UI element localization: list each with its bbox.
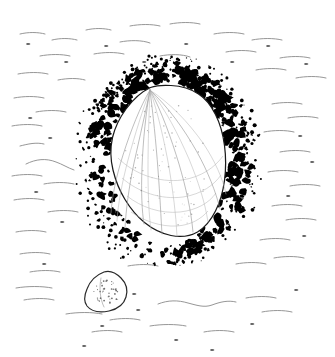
encrust-speck: [158, 69, 160, 71]
encrust-speck: [76, 158, 77, 159]
background-speckle: [302, 236, 305, 237]
shell-stipple-dot: [174, 192, 175, 193]
encrust-speck: [114, 235, 118, 239]
encrust-speck: [190, 59, 191, 60]
encrust-speck: [116, 92, 118, 94]
encrust-speck: [107, 241, 109, 243]
encrust-speck: [253, 192, 256, 195]
encrust-speck: [241, 124, 243, 126]
encrust-speck: [111, 87, 113, 89]
encrust-speck: [116, 86, 120, 90]
encrust-speck: [250, 142, 253, 145]
encrust-speck: [160, 57, 163, 60]
encrust-speck: [167, 260, 171, 264]
shell-stipple-dot: [176, 111, 177, 112]
encrust-speck: [99, 101, 102, 104]
small-shell-stipple-dot: [103, 288, 105, 290]
encrust-speck: [130, 64, 133, 67]
encrust-speck: [79, 140, 82, 143]
shell-stipple-dot: [202, 142, 204, 144]
encrust-speck: [202, 257, 205, 260]
shell-stipple-dot: [134, 143, 135, 144]
background-speckle: [26, 44, 29, 45]
encrust-speck: [138, 69, 139, 70]
background-speckle: [184, 44, 187, 45]
small-shell-stipple-dot: [111, 284, 112, 285]
encrust-speck: [234, 229, 236, 231]
encrust-speck: [103, 222, 104, 223]
small-shell-stipple-dot: [93, 291, 94, 292]
encrust-speck: [83, 110, 85, 112]
encrust-speck: [231, 109, 235, 113]
encrust-speck: [105, 110, 108, 113]
shell-stipple-dot: [182, 203, 183, 204]
illustration-svg: [0, 0, 335, 357]
encrust-speck: [190, 72, 192, 74]
encrust-speck: [196, 58, 197, 59]
encrust-speck: [89, 223, 91, 225]
encrust-speck: [228, 224, 230, 226]
encrust-speck: [224, 238, 226, 240]
encrust-speck: [154, 55, 157, 58]
encrust-speck: [130, 250, 132, 252]
encrust-speck: [78, 122, 80, 124]
encrust-speck: [114, 97, 115, 98]
shell-stipple-dot: [169, 182, 170, 183]
encrust-speck: [151, 57, 153, 59]
encrust-speck: [221, 234, 224, 237]
encrust-speck: [213, 68, 215, 70]
shell-stipple-dot: [157, 195, 158, 196]
encrust-speck: [112, 101, 113, 102]
background-speckle: [100, 326, 103, 327]
encrust-speck: [225, 76, 228, 79]
encrust-speck: [123, 71, 126, 74]
encrust-speck: [229, 92, 233, 96]
encrust-speck: [209, 73, 211, 75]
shell-stipple-dot: [135, 167, 137, 169]
shell-stipple-dot: [159, 165, 160, 166]
background-speckle: [298, 136, 301, 137]
small-shell-stipple-dot: [100, 297, 101, 298]
encrust-speck: [109, 81, 113, 85]
shell-stipple-dot: [140, 190, 142, 192]
small-shell-stipple-dot: [103, 300, 105, 302]
encrust-speck: [181, 67, 184, 70]
encrust-speck: [238, 131, 241, 134]
encrust-speck: [147, 263, 148, 264]
shell-stipple-dot: [182, 217, 183, 218]
shell-stipple-dot: [151, 105, 152, 106]
encrust-speck: [85, 161, 87, 163]
encrust-speck: [172, 262, 175, 265]
encrust-speck: [88, 108, 91, 111]
background-speckle: [210, 350, 213, 351]
encrust-speck: [254, 159, 257, 162]
shell-stipple-dot: [170, 117, 171, 118]
encrust-speck: [240, 208, 241, 209]
encrust-speck: [253, 123, 257, 127]
small-shell-stipple-dot: [96, 285, 97, 286]
shell-stipple-dot: [138, 182, 140, 184]
encrust-speck: [111, 95, 114, 98]
encrust-speck: [218, 93, 221, 96]
shell-stipple-dot: [181, 220, 182, 221]
shell-stipple-dot: [185, 177, 186, 178]
shell-stipple-dot: [168, 166, 170, 168]
encrust-speck: [115, 243, 117, 245]
encrust-speck: [257, 175, 259, 177]
encrust-speck: [150, 63, 152, 65]
encrust-speck: [121, 79, 123, 81]
background-speckle: [136, 310, 139, 311]
encrust-speck: [165, 64, 167, 66]
encrust-speck: [197, 66, 201, 70]
shell-stipple-dot: [142, 170, 143, 171]
encrust-speck: [170, 58, 171, 59]
encrust-speck: [165, 59, 169, 63]
small-shell-stipple-dot: [114, 293, 116, 295]
encrust-speck: [175, 61, 179, 65]
shell-stipple-dot: [166, 136, 167, 137]
shell-stipple-dot: [137, 154, 138, 155]
encrust-speck: [212, 80, 213, 81]
shell-stipple-dot: [191, 214, 193, 216]
background-speckle: [82, 346, 85, 347]
encrust-speck: [221, 73, 223, 75]
